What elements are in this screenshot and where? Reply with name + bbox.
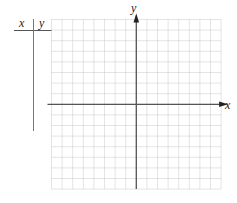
- coordinate-plane: y x: [0, 0, 237, 203]
- y-axis-label: y: [131, 2, 136, 14]
- coordinate-grid: [0, 0, 237, 203]
- x-axis-label: x: [225, 99, 230, 111]
